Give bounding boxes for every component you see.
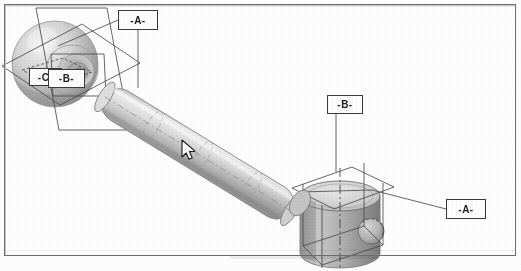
connecting-rod [91,79,305,228]
figure-caption [0,262,521,271]
datum-label-b-sphere[interactable]: -B- [48,69,85,88]
datum-label-b-piston[interactable]: -B- [327,95,363,114]
datum-label-a-top[interactable]: -A- [118,10,158,30]
piston-cylinder [300,168,384,268]
datum-label-a-right[interactable]: -A- [446,199,486,219]
cad-drawing-page: -A- -C- -B- -B- -A- [0,0,521,271]
cad-viewport [0,0,521,271]
